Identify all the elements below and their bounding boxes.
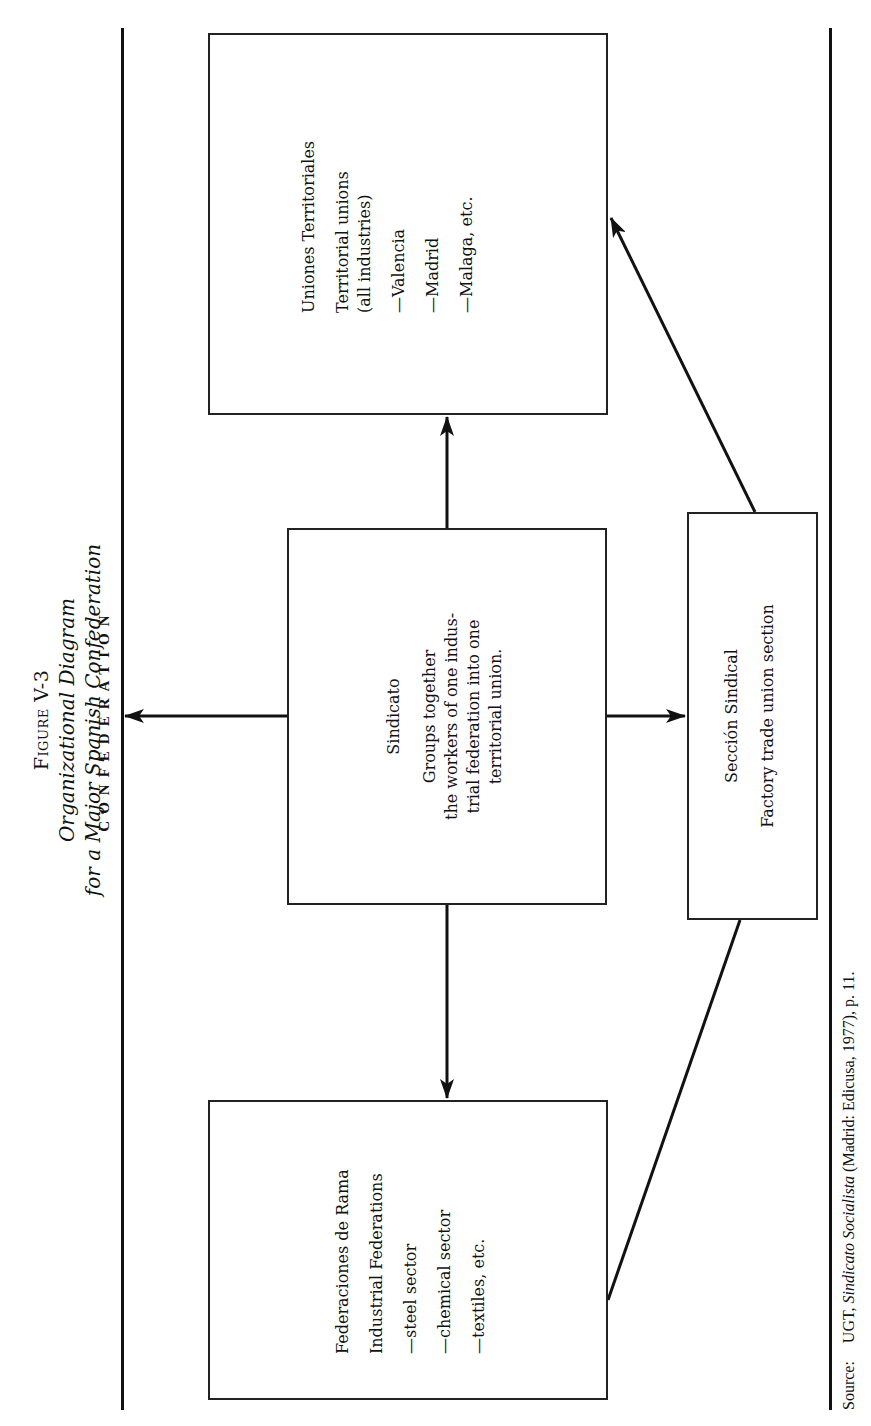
- sindicato-content: Sindicato Groups together the workers of…: [383, 530, 507, 903]
- uniones-item: —Madrid: [422, 141, 444, 313]
- sindicato-desc-line: the workers of one indus-: [441, 530, 463, 903]
- sindicato-desc-line: territorial union.: [485, 530, 507, 903]
- uniones-territoriales-box: Uniones Territoriales Territorial unions…: [208, 33, 608, 415]
- federaciones-item: —textiles, etc.: [468, 1169, 490, 1354]
- uniones-item: —Valencia: [388, 141, 410, 313]
- diagram-page: Figure V-3 Organizational Diagram for a …: [0, 0, 871, 1426]
- uniones-heading: Uniones Territoriales: [298, 141, 320, 313]
- federaciones-content: Federaciones de Rama Industrial Federati…: [332, 1169, 490, 1354]
- line-seccion-to-federaciones: [608, 920, 740, 1300]
- sindicato-box: Sindicato Groups together the workers of…: [287, 528, 607, 905]
- uniones-item: —Malaga, etc.: [456, 141, 478, 313]
- source-prefix: Source:: [840, 1361, 857, 1410]
- source-citation: Source: UGT, Sindicato Socialista (Madri…: [840, 972, 858, 1410]
- seccion-heading: Sección Sindical: [721, 514, 743, 918]
- sindicato-desc-line: trial federation into one: [463, 530, 485, 903]
- uniones-subheading-1: Territorial unions: [332, 141, 354, 313]
- seccion-subheading: Factory trade union section: [757, 514, 779, 918]
- federaciones-de-rama-box: Federaciones de Rama Industrial Federati…: [208, 1100, 608, 1400]
- federaciones-item: —chemical sector: [434, 1169, 456, 1354]
- seccion-sindical-box: Sección Sindical Factory trade union sec…: [687, 512, 818, 920]
- federaciones-heading: Federaciones de Rama: [332, 1169, 354, 1354]
- source-author: UGT,: [840, 1307, 857, 1343]
- seccion-content: Sección Sindical Factory trade union sec…: [721, 514, 779, 918]
- uniones-content: Uniones Territoriales Territorial unions…: [298, 141, 478, 313]
- source-work: Sindicato Socialista: [840, 1176, 857, 1304]
- federaciones-subheading: Industrial Federations: [366, 1169, 388, 1354]
- uniones-subheading-2: (all industries): [354, 141, 376, 313]
- source-rest: (Madrid: Edicusa, 1977), p. 11.: [840, 972, 857, 1172]
- sindicato-desc-line: Groups together: [419, 530, 441, 903]
- sindicato-heading: Sindicato: [383, 530, 405, 903]
- federaciones-item: —steel sector: [400, 1169, 422, 1354]
- arrow-seccion-to-uniones: [611, 218, 755, 512]
